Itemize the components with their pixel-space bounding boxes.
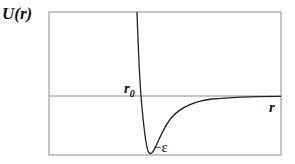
potential-curve xyxy=(137,12,281,153)
potential-energy-plot xyxy=(0,0,295,164)
plot-frame xyxy=(49,12,281,155)
r0-subscript: 0 xyxy=(130,88,135,99)
r0-label: r0 xyxy=(124,81,135,99)
x-axis-label: r xyxy=(269,100,275,115)
epsilon-label: −ε xyxy=(153,140,168,155)
y-axis-label: U(r) xyxy=(2,5,32,22)
